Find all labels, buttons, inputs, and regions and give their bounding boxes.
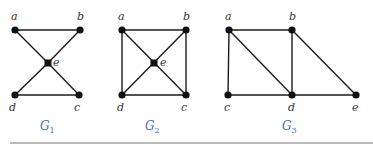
vertex-b (288, 26, 295, 33)
vertex-a (118, 26, 125, 33)
vertex-a (11, 26, 18, 33)
vertex-label-e: e (160, 56, 167, 69)
vertex-label-c: c (181, 101, 187, 114)
vertex-d (288, 91, 295, 98)
graph-label: G2 (145, 119, 160, 135)
vertex-label-d: d (288, 101, 295, 114)
graph-label: G3 (282, 119, 297, 135)
graph-g3: abcdeG3 (224, 10, 360, 135)
vertex-label-b: b (289, 10, 296, 23)
graph-g1: abcdeG1 (9, 10, 84, 135)
vertex-label-a: a (118, 10, 125, 23)
graphs-figure: abcdeG1abcdeG2abcdeG3 (0, 0, 373, 147)
vertex-c (75, 91, 82, 98)
vertex-label-d: d (9, 101, 16, 114)
vertex-b (182, 26, 189, 33)
vertex-e (151, 60, 158, 67)
vertex-b (76, 26, 83, 33)
vertex-label-e: e (352, 101, 359, 114)
vertex-a (225, 26, 232, 33)
vertex-e (352, 91, 359, 98)
vertex-e (45, 60, 52, 67)
graph-g2: abcdeG2 (117, 10, 190, 135)
vertex-label-b: b (183, 10, 190, 23)
vertex-c (224, 91, 231, 98)
vertex-d (118, 91, 125, 98)
vertex-label-a: a (11, 10, 18, 23)
vertex-label-c: c (224, 101, 230, 114)
edge-b-e (292, 30, 356, 95)
edge-a-c (228, 30, 229, 95)
edge-e-d (15, 63, 48, 95)
vertex-d (11, 91, 18, 98)
graph-label: G1 (40, 119, 55, 135)
edge-a-e (15, 30, 48, 63)
vertex-c (182, 91, 189, 98)
vertex-label-e: e (53, 56, 60, 69)
vertex-label-c: c (74, 101, 80, 114)
vertex-label-d: d (117, 101, 124, 114)
vertex-label-a: a (225, 10, 232, 23)
edge-a-d (229, 30, 292, 95)
vertex-label-b: b (77, 10, 84, 23)
